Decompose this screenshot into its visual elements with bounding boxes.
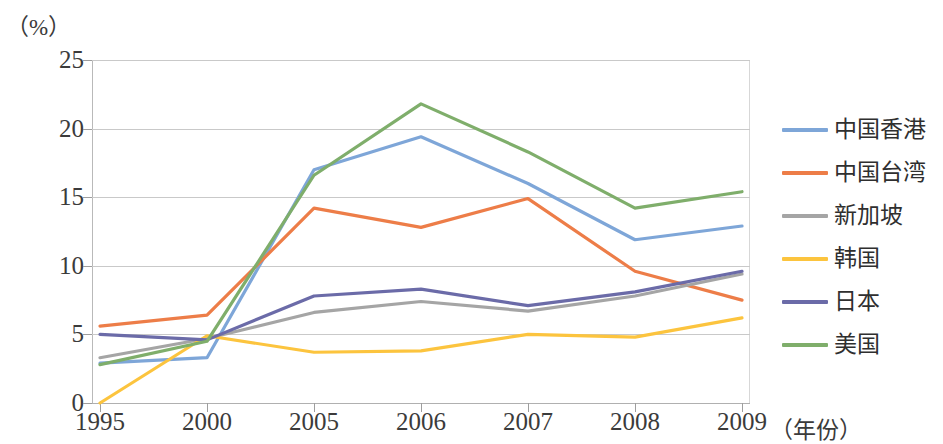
series-line xyxy=(100,318,742,403)
y-axis-tickmark xyxy=(83,334,92,335)
legend-color-swatch xyxy=(782,128,828,132)
x-axis-tick-label: 1995 xyxy=(75,409,125,434)
plot-area xyxy=(92,60,750,403)
legend-color-swatch xyxy=(782,214,828,218)
legend-item[interactable]: 中国香港 xyxy=(782,108,942,151)
series-line xyxy=(100,137,742,363)
x-axis-tick-label: 2005 xyxy=(289,409,339,434)
series-line xyxy=(100,199,742,327)
x-axis-tick-label: 2008 xyxy=(610,409,660,434)
series-lines xyxy=(92,60,750,403)
legend-item[interactable]: 美国 xyxy=(782,323,942,366)
legend-item[interactable]: 韩国 xyxy=(782,237,942,280)
legend-color-swatch xyxy=(782,257,828,261)
y-axis-tick-label: 5 xyxy=(38,321,84,346)
series-line xyxy=(100,271,742,340)
legend-item[interactable]: 中国台湾 xyxy=(782,151,942,194)
legend-item-label: 韩国 xyxy=(834,247,880,270)
legend-item-label: 美国 xyxy=(834,333,880,356)
y-axis-tickmark xyxy=(83,60,92,61)
legend-item-label: 中国台湾 xyxy=(834,161,926,184)
x-axis-tick-label: 2006 xyxy=(396,409,446,434)
line-chart: （%） 0510152025 （年份） 19952000200520062007… xyxy=(0,0,943,444)
y-axis-tickmark xyxy=(83,197,92,198)
legend-color-swatch xyxy=(782,343,828,347)
legend-color-swatch xyxy=(782,300,828,304)
y-axis-tickmark xyxy=(83,403,92,404)
x-axis-tick-labels: （年份） 1995200020052006200720082009 xyxy=(0,409,943,444)
y-axis-tick-label: 10 xyxy=(38,253,84,278)
legend-item[interactable]: 日本 xyxy=(782,280,942,323)
y-axis-tick-label: 25 xyxy=(38,47,84,72)
y-axis-tick-label: 20 xyxy=(38,116,84,141)
legend-item-label: 中国香港 xyxy=(834,118,926,141)
series-line xyxy=(100,104,742,365)
x-axis-tick-label: 2007 xyxy=(503,409,553,434)
y-axis-tick-labels: 0510152025 xyxy=(10,0,84,444)
x-axis-tick-label: 2000 xyxy=(182,409,232,434)
y-axis-tickmark xyxy=(83,129,92,130)
x-axis-tick-label: 2009 xyxy=(717,409,767,434)
legend-item-label: 新加坡 xyxy=(834,204,903,227)
y-axis-tickmark xyxy=(83,266,92,267)
x-axis-title: （年份） xyxy=(770,411,862,444)
legend-item-label: 日本 xyxy=(834,290,880,313)
y-axis-tick-label: 15 xyxy=(38,184,84,209)
legend-item[interactable]: 新加坡 xyxy=(782,194,942,237)
legend-color-swatch xyxy=(782,171,828,175)
legend: 中国香港中国台湾新加坡韩国日本美国 xyxy=(782,108,942,366)
